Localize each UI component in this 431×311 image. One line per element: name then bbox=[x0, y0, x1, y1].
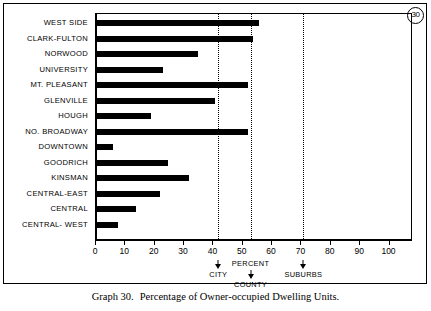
annotation-percent: PERCENT bbox=[232, 259, 269, 269]
figure-caption: Graph 30.Percentage of Owner-occupied Dw… bbox=[0, 291, 431, 302]
category-label: HOUGH bbox=[58, 109, 88, 123]
category-label: NO. BROADWAY bbox=[25, 125, 88, 139]
annotation-county: COUNTY bbox=[234, 280, 267, 290]
bar-row: GOODRICH bbox=[95, 156, 412, 170]
x-tick bbox=[389, 241, 390, 245]
bar-row: CLARK-FULTON bbox=[95, 32, 412, 46]
bar bbox=[95, 51, 198, 57]
bar-row: CENTRAL- WEST bbox=[95, 218, 412, 232]
reference-line-city bbox=[218, 13, 219, 241]
x-tick-label: 10 bbox=[120, 246, 129, 257]
x-tick-label: 100 bbox=[381, 246, 395, 257]
category-label: MT. PLEASANT bbox=[30, 78, 88, 92]
caption-number: Graph 30. bbox=[92, 291, 134, 302]
bar-row: MT. PLEASANT bbox=[95, 78, 412, 92]
category-label: DOWNTOWN bbox=[38, 140, 88, 154]
bar-row: NORWOOD bbox=[95, 47, 412, 61]
category-label: UNIVERSITY bbox=[39, 63, 88, 77]
x-tick-label: 80 bbox=[325, 246, 334, 257]
x-tick bbox=[154, 241, 155, 245]
x-tick bbox=[242, 241, 243, 245]
caption-text: Percentage of Owner-occupied Dwelling Un… bbox=[140, 291, 340, 302]
category-label: CENTRAL-EAST bbox=[27, 187, 88, 201]
category-label: CLARK-FULTON bbox=[27, 32, 88, 46]
reference-line-county bbox=[251, 13, 252, 241]
bar-row: UNIVERSITY bbox=[95, 63, 412, 77]
annotation-city: CITY bbox=[209, 270, 227, 280]
bar-row: NO. BROADWAY bbox=[95, 125, 412, 139]
x-tick-label: 50 bbox=[237, 246, 246, 257]
annotation-city-arrow-icon bbox=[215, 264, 221, 269]
bar bbox=[95, 36, 253, 42]
bar-row: CENTRAL-EAST bbox=[95, 187, 412, 201]
bar bbox=[95, 129, 248, 135]
category-label: CENTRAL bbox=[50, 202, 88, 216]
bar bbox=[95, 175, 189, 181]
category-label: WEST SIDE bbox=[44, 16, 88, 30]
bar bbox=[95, 144, 113, 150]
x-tick bbox=[359, 241, 360, 245]
category-label: CENTRAL- WEST bbox=[22, 218, 88, 232]
bar bbox=[95, 113, 151, 119]
x-tick-label: 20 bbox=[149, 246, 158, 257]
bar bbox=[95, 67, 163, 73]
x-tick bbox=[183, 241, 184, 245]
bar-row: HOUGH bbox=[95, 109, 412, 123]
bar bbox=[95, 82, 248, 88]
x-tick bbox=[330, 241, 331, 245]
x-tick-label: 30 bbox=[178, 246, 187, 257]
annotation-county-arrow-icon bbox=[248, 274, 254, 279]
x-tick bbox=[95, 241, 96, 245]
bar-row: KINSMAN bbox=[95, 171, 412, 185]
category-label: NORWOOD bbox=[45, 47, 88, 61]
bar-row: DOWNTOWN bbox=[95, 140, 412, 154]
bar-row: CENTRAL bbox=[95, 202, 412, 216]
bar-row: GLENVILLE bbox=[95, 94, 412, 108]
category-label: KINSMAN bbox=[51, 171, 88, 185]
bar bbox=[95, 222, 118, 228]
bar bbox=[95, 160, 168, 166]
bar bbox=[95, 191, 160, 197]
x-tick-label: 70 bbox=[296, 246, 305, 257]
reference-line-suburbs bbox=[303, 13, 304, 241]
bar-chart: WEST SIDECLARK-FULTONNORWOODUNIVERSITYMT… bbox=[0, 0, 431, 311]
category-label: GLENVILLE bbox=[44, 94, 88, 108]
bar bbox=[95, 20, 259, 26]
x-tick bbox=[300, 241, 301, 245]
x-tick-label: 90 bbox=[354, 246, 363, 257]
bar bbox=[95, 206, 136, 212]
annotation-suburbs: SUBURBS bbox=[284, 270, 322, 280]
x-tick-label: 60 bbox=[266, 246, 275, 257]
annotation-suburbs-arrow-icon bbox=[300, 264, 306, 269]
category-label: GOODRICH bbox=[44, 156, 88, 170]
x-tick bbox=[271, 241, 272, 245]
x-tick-label: 40 bbox=[208, 246, 217, 257]
bar-row: WEST SIDE bbox=[95, 16, 412, 30]
x-tick bbox=[124, 241, 125, 245]
x-tick bbox=[212, 241, 213, 245]
x-tick-label: 0 bbox=[93, 246, 98, 257]
bar bbox=[95, 98, 215, 104]
